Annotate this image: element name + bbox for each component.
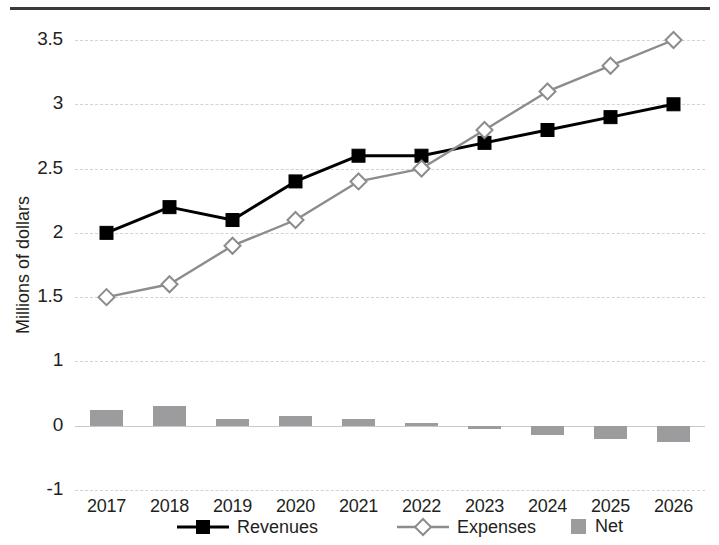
legend-swatch-bar-icon (570, 517, 588, 535)
data-point-marker-diamond (162, 276, 178, 292)
data-point-marker-square (163, 201, 176, 214)
legend-item[interactable]: Expenses (396, 517, 536, 537)
data-point-marker-diamond (603, 58, 619, 74)
data-point-marker-diamond (225, 238, 241, 254)
chart-legend: RevenuesExpensesNet (0, 513, 719, 545)
data-point-marker-square (289, 175, 302, 188)
y-axis-tick-label: 1 (0, 349, 63, 371)
data-point-marker-diamond (288, 212, 304, 228)
legend-swatch-line-diamond-icon (396, 517, 450, 537)
data-point-marker-square (352, 149, 365, 162)
chart-figure: Millions of dollars 3.532.521.510-1 2017… (0, 0, 719, 545)
data-point-marker-square (604, 111, 617, 124)
data-point-marker-square (197, 521, 210, 534)
data-point-marker-diamond (414, 161, 430, 177)
data-point-marker-square (226, 214, 239, 227)
gridline (75, 490, 705, 491)
data-point-marker-diamond (666, 32, 682, 48)
data-point-marker-diamond (415, 519, 431, 535)
plot-area (75, 40, 705, 490)
y-axis-title: Millions of dollars (13, 196, 34, 334)
legend-item[interactable]: Net (570, 517, 623, 535)
data-point-marker-diamond (477, 122, 493, 138)
legend-label: Net (595, 517, 623, 535)
data-point-marker-square (100, 226, 113, 239)
y-axis-tick-label: 3.5 (0, 28, 63, 50)
line-series-group (75, 40, 705, 490)
top-divider-rule (10, 7, 710, 10)
y-axis-tick-label: -1 (0, 478, 63, 500)
series-line (107, 40, 674, 297)
legend-label: Revenues (237, 518, 318, 536)
y-axis-tick-label: 1.5 (0, 285, 63, 307)
y-axis-tick-label: 3 (0, 92, 63, 114)
legend-label: Expenses (457, 518, 536, 536)
y-axis-tick-label: 2 (0, 221, 63, 243)
y-axis-tick-label: 0 (0, 414, 63, 436)
y-axis-tick-label: 2.5 (0, 157, 63, 179)
data-point-marker-diamond (351, 173, 367, 189)
series-line (107, 104, 674, 233)
legend-swatch-line-square-icon (176, 517, 230, 537)
data-point-marker-square (667, 98, 680, 111)
legend-item[interactable]: Revenues (176, 517, 318, 537)
data-point-marker-diamond (99, 289, 115, 305)
data-point-marker-diamond (540, 83, 556, 99)
data-point-marker-square (541, 124, 554, 137)
